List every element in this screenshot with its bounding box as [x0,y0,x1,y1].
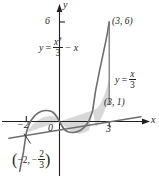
point-neg2-den: 3 [38,159,45,171]
point-neg2-minus: − [32,155,37,165]
point-label-3-6: (3, 6) [112,17,133,27]
line-eq-fraction: x3 [129,70,136,92]
line-eq-y: y [115,74,119,85]
line-eq-equals: = [121,74,127,85]
cubic-eq-numerator: x3 [53,38,62,48]
line-eq-numerator: x [129,70,136,80]
x-tick-label-3: 3 [106,124,111,134]
line-equation-label: y=x3 [115,70,136,92]
line-eq-denominator: 3 [129,79,136,91]
y-axis-label: y [63,0,67,10]
point-label-3-1: (3, 1) [104,98,125,108]
origin-label: 0 [48,123,53,133]
point-neg2-fraction: 23 [38,150,45,172]
cubic-equation-label: y=x33− x [39,38,78,60]
cubic-eq-fraction: x33 [53,38,62,60]
cubic-eq-denominator: 3 [53,47,62,59]
point-neg2-x: −2, [17,155,29,165]
point-neg2-num: 2 [38,150,45,160]
x-tick-label-neg2: −2 [17,120,29,130]
y-tick-label-6: 6 [45,16,50,26]
cubic-eq-minus-term: − x [65,42,79,53]
x-axis-arrow [142,119,150,125]
point-label-neg2: (−2,−23) [12,150,50,172]
figure-cubic-vs-line: y x 6 −2 3 0 y=x33− x y=x3 (3, 6) (3, 1)… [0,0,159,178]
cubic-eq-exponent: 3 [58,34,61,41]
cubic-eq-y: y [39,42,43,53]
y-axis-arrow [57,4,63,12]
x-axis-label: x [151,115,155,125]
point-neg2-open-paren: ( [12,151,17,168]
cubic-eq-equals: = [45,42,51,53]
point-neg2-close-paren: ) [45,151,50,168]
